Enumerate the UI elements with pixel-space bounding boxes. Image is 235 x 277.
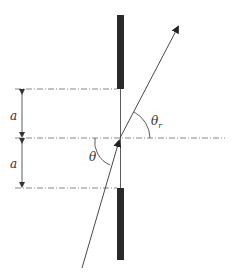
upper-screen: [117, 15, 124, 89]
slit-diagram: a a θ θr: [0, 0, 235, 277]
theta-arc: [95, 138, 110, 165]
incident-ray: [82, 141, 119, 268]
label-theta-r: θr: [151, 114, 163, 130]
theta-r-arc: [134, 112, 150, 138]
label-theta: θ: [89, 150, 97, 164]
label-a-upper: a: [10, 109, 17, 123]
lower-screen: [117, 188, 124, 260]
outgoing-ray: [120, 27, 178, 138]
label-a-lower: a: [10, 157, 17, 171]
label-theta-r-sub: r: [158, 121, 163, 130]
